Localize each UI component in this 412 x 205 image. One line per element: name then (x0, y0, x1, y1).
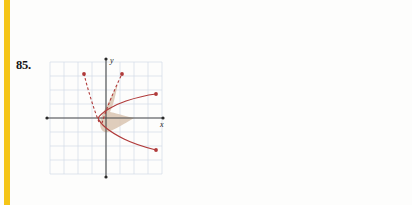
x-axis-label-85: x (159, 120, 164, 129)
exercise-86: 86. (206, 0, 412, 205)
figure-85-graph: y x (44, 56, 168, 182)
y-axis-label-85: y (109, 56, 114, 65)
textbook-page-figure: 85. (0, 0, 412, 205)
shaded-lens-region-85 (100, 83, 134, 132)
figure-85-svg: y x (44, 56, 168, 182)
exercise-85: 85. (0, 0, 206, 205)
dashed-branch-left-85 (84, 74, 99, 122)
exercise-85-number: 85. (16, 58, 31, 73)
